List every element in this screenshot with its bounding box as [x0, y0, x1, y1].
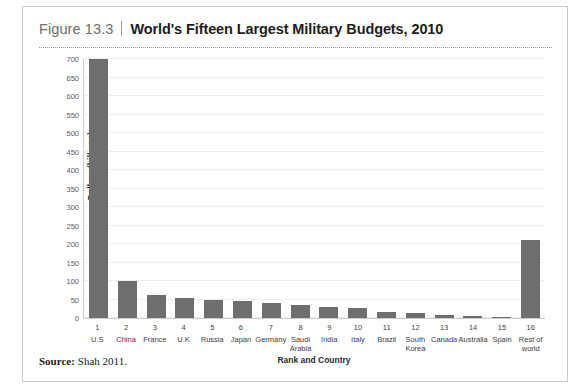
bar-series — [84, 59, 545, 318]
y-tick-label: 550 — [66, 110, 79, 119]
x-tick-country: South Korea — [401, 335, 430, 354]
x-tick-country: Italy — [344, 335, 373, 345]
x-tick-rank: 1 — [83, 323, 112, 333]
bar-slot — [372, 59, 401, 318]
x-tick-country: Germany — [255, 335, 286, 345]
bar-saudi-arabia — [291, 305, 310, 318]
source-text: Shah 2011. — [78, 355, 127, 367]
x-tick-country: Russia — [198, 335, 227, 345]
x-tick-label: 5Russia — [198, 323, 227, 354]
bar-slot — [286, 59, 315, 318]
x-tick-country: Japan — [227, 335, 256, 345]
x-tick-country: Rest of world — [516, 335, 545, 354]
x-tick-label: 6Japan — [227, 323, 256, 354]
x-tick-country: Spain — [488, 335, 517, 345]
bar-u-s — [89, 59, 108, 318]
bar-france — [147, 295, 166, 318]
x-tick-label: 10Italy — [344, 323, 373, 354]
bar-u-k — [175, 298, 194, 318]
x-tick-label: 3France — [140, 323, 169, 354]
x-tick-label: 13Canada — [430, 323, 459, 354]
bar-slot — [228, 59, 257, 318]
bar-slot — [430, 59, 459, 318]
y-tick-label: 0 — [75, 314, 79, 323]
bar-rest-of-world — [521, 240, 540, 318]
x-tick-country: Canada — [430, 335, 459, 345]
bar-india — [319, 307, 338, 318]
y-tick-label: 350 — [66, 184, 79, 193]
bar-brazil — [377, 312, 396, 318]
x-tick-rank: 7 — [255, 323, 286, 333]
bar-slot — [315, 59, 344, 318]
x-tick-label: 9India — [315, 323, 344, 354]
x-tick-country: India — [315, 335, 344, 345]
bar-germany — [262, 303, 281, 318]
bar-spain — [492, 317, 511, 318]
bar-japan — [233, 301, 252, 318]
bar-slot — [257, 59, 286, 318]
bar-italy — [348, 308, 367, 318]
x-tick-label: 8Saudi Arabia — [286, 323, 315, 354]
bar-russia — [204, 300, 223, 319]
bar-canada — [435, 315, 454, 318]
bar-slot — [113, 59, 142, 318]
source-line: Source:Shah 2011. — [39, 355, 127, 367]
x-tick-country: U.K — [169, 335, 198, 345]
y-tick-label: 200 — [66, 240, 79, 249]
y-tick-label: 500 — [66, 129, 79, 138]
x-tick-country: U.S — [83, 335, 112, 345]
x-tick-rank: 12 — [401, 323, 430, 333]
figure-header: Figure 13.3 World's Fifteen Largest Mili… — [39, 19, 551, 45]
x-tick-label: 16Rest of world — [516, 323, 545, 354]
x-tick-label: 11Brazil — [372, 323, 401, 354]
y-tick-label: 250 — [66, 221, 79, 230]
source-label: Source: — [39, 355, 75, 367]
x-tick-rank: 5 — [198, 323, 227, 333]
x-tick-label: 7Germany — [255, 323, 286, 354]
x-tick-rank: 11 — [372, 323, 401, 333]
bar-china — [118, 281, 137, 318]
x-tick-rank: 8 — [286, 323, 315, 333]
title-separator-rule — [39, 47, 552, 48]
x-tick-country: China — [112, 335, 141, 345]
plot-area: 0501001502002503003504004505005506006507… — [83, 59, 545, 319]
y-tick-label: 650 — [66, 73, 79, 82]
x-tick-rank: 6 — [227, 323, 256, 333]
x-tick-rank: 3 — [140, 323, 169, 333]
x-tick-label: 4U.K — [169, 323, 198, 354]
y-tick-label: 50 — [71, 295, 79, 304]
bar-slot — [487, 59, 516, 318]
y-tick-label: 700 — [66, 55, 79, 64]
figure-divider — [121, 21, 122, 36]
x-tick-rank: 9 — [315, 323, 344, 333]
x-tick-rank: 13 — [430, 323, 459, 333]
chart-area: Dollars (billions) 050100150200250300350… — [39, 53, 553, 348]
bar-slot — [516, 59, 545, 318]
x-tick-country: Australia — [458, 335, 487, 345]
bar-slot — [170, 59, 199, 318]
x-tick-country: France — [140, 335, 169, 345]
y-tick-label: 150 — [66, 258, 79, 267]
y-tick-label: 600 — [66, 92, 79, 101]
x-tick-rank: 2 — [112, 323, 141, 333]
y-tick-label: 300 — [66, 203, 79, 212]
bar-australia — [463, 316, 482, 318]
x-tick-rank: 14 — [458, 323, 487, 333]
x-tick-label: 12South Korea — [401, 323, 430, 354]
bar-slot — [84, 59, 113, 318]
bar-slot — [401, 59, 430, 318]
bar-slot — [142, 59, 171, 318]
figure-number: Figure 13.3 — [39, 21, 113, 37]
x-tick-label: 2China — [112, 323, 141, 354]
x-tick-country: Saudi Arabia — [286, 335, 315, 354]
x-axis-title: Rank and Country — [83, 355, 545, 365]
figure-title: World's Fifteen Largest Military Budgets… — [130, 21, 443, 37]
y-tick-label: 450 — [66, 147, 79, 156]
x-tick-rank: 10 — [344, 323, 373, 333]
figure-frame: Figure 13.3 World's Fifteen Largest Mili… — [22, 6, 568, 382]
y-tick-label: 400 — [66, 166, 79, 175]
x-tick-rank: 15 — [488, 323, 517, 333]
x-tick-label: 14Australia — [458, 323, 487, 354]
x-tick-label: 1U.S — [83, 323, 112, 354]
bar-south-korea — [406, 313, 425, 318]
